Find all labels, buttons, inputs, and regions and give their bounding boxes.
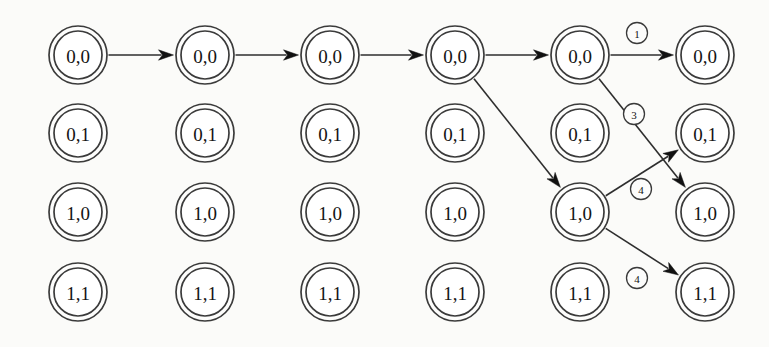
state-node-c5r4[interactable]: 1,1 bbox=[551, 263, 609, 321]
node-label: 0,1 bbox=[318, 124, 342, 145]
edge-label-e5: 1 bbox=[627, 23, 648, 44]
edge-e6 bbox=[474, 79, 560, 188]
state-node-c3r2[interactable]: 0,1 bbox=[301, 104, 359, 162]
edge-e9-label-4 bbox=[606, 228, 679, 275]
state-node-c5r1[interactable]: 0,0 bbox=[551, 26, 609, 84]
edge-label-text: 4 bbox=[634, 273, 640, 285]
node-label: 0,0 bbox=[568, 46, 592, 67]
edge-label-text: 3 bbox=[631, 109, 637, 121]
edge-label-e7: 3 bbox=[624, 104, 645, 125]
state-node-c6r2[interactable]: 0,1 bbox=[676, 104, 734, 162]
state-node-c4r4[interactable]: 1,1 bbox=[426, 263, 484, 321]
node-label: 1,0 bbox=[693, 203, 717, 224]
node-label: 1,1 bbox=[443, 283, 467, 304]
node-label: 0,1 bbox=[568, 124, 592, 145]
node-label: 0,1 bbox=[443, 124, 467, 145]
state-node-c6r1[interactable]: 0,0 bbox=[676, 26, 734, 84]
state-node-c2r4[interactable]: 1,1 bbox=[176, 263, 234, 321]
edge-e4 bbox=[486, 50, 549, 60]
edge-e3 bbox=[361, 50, 424, 60]
node-label: 1,1 bbox=[568, 283, 592, 304]
node-label: 1,1 bbox=[193, 283, 217, 304]
node-label: 0,1 bbox=[193, 124, 217, 145]
edge-e1 bbox=[109, 50, 174, 60]
arrowhead-icon bbox=[547, 172, 560, 187]
node-label: 0,0 bbox=[318, 46, 342, 67]
edge-label-e8: 4 bbox=[631, 179, 652, 200]
state-node-c4r1[interactable]: 0,0 bbox=[426, 26, 484, 84]
state-node-c3r3[interactable]: 1,0 bbox=[301, 183, 359, 241]
node-label: 1,1 bbox=[318, 283, 342, 304]
edge-e7-label-3 bbox=[599, 79, 685, 188]
node-label: 0,0 bbox=[66, 46, 90, 67]
diagram-canvas: 0,00,11,01,10,00,11,01,10,00,11,01,10,00… bbox=[0, 0, 769, 347]
node-label: 0,1 bbox=[693, 124, 717, 145]
node-label: 1,1 bbox=[66, 283, 90, 304]
state-node-c3r4[interactable]: 1,1 bbox=[301, 263, 359, 321]
node-label: 1,0 bbox=[66, 203, 90, 224]
state-node-c2r1[interactable]: 0,0 bbox=[176, 26, 234, 84]
state-node-c3r1[interactable]: 0,0 bbox=[301, 26, 359, 84]
node-label: 1,0 bbox=[318, 203, 342, 224]
state-node-c4r3[interactable]: 1,0 bbox=[426, 183, 484, 241]
state-node-c2r2[interactable]: 0,1 bbox=[176, 104, 234, 162]
node-label: 1,1 bbox=[693, 283, 717, 304]
edge-label-text: 1 bbox=[634, 28, 640, 40]
arrowhead-icon bbox=[672, 172, 685, 187]
arrowhead-icon bbox=[663, 150, 678, 162]
state-node-c1r4[interactable]: 1,1 bbox=[49, 263, 107, 321]
state-node-c6r4[interactable]: 1,1 bbox=[676, 263, 734, 321]
edges-layer bbox=[109, 50, 686, 275]
node-label: 1,0 bbox=[443, 203, 467, 224]
state-node-c1r1[interactable]: 0,0 bbox=[49, 26, 107, 84]
edge-label-text: 4 bbox=[638, 184, 644, 196]
node-label: 0,0 bbox=[193, 46, 217, 67]
state-node-c1r3[interactable]: 1,0 bbox=[49, 183, 107, 241]
state-node-c5r2[interactable]: 0,1 bbox=[551, 104, 609, 162]
state-transition-diagram: 0,00,11,01,10,00,11,01,10,00,11,01,10,00… bbox=[0, 0, 769, 347]
state-node-c5r3[interactable]: 1,0 bbox=[551, 183, 609, 241]
node-label: 1,0 bbox=[193, 203, 217, 224]
state-node-c2r3[interactable]: 1,0 bbox=[176, 183, 234, 241]
arrowhead-icon bbox=[663, 263, 678, 275]
edge-e5-label-1 bbox=[611, 50, 674, 60]
node-label: 0,1 bbox=[66, 124, 90, 145]
node-label: 1,0 bbox=[568, 203, 592, 224]
node-label: 0,0 bbox=[693, 46, 717, 67]
edge-e2 bbox=[236, 50, 299, 60]
state-node-c4r2[interactable]: 0,1 bbox=[426, 104, 484, 162]
edge-label-e9: 4 bbox=[627, 268, 648, 289]
state-node-c6r3[interactable]: 1,0 bbox=[676, 183, 734, 241]
state-node-c1r2[interactable]: 0,1 bbox=[49, 104, 107, 162]
node-label: 0,0 bbox=[443, 46, 467, 67]
